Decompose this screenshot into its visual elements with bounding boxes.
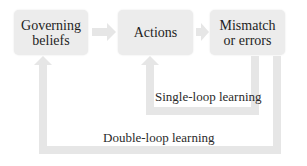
governing-beliefs-label-line2: beliefs (21, 33, 81, 48)
arrow-beliefs-to-actions (92, 23, 116, 41)
double-loop-label: Double-loop learning (103, 130, 215, 146)
actions-box: Actions (118, 10, 193, 55)
mismatch-label-line2: or errors (220, 33, 276, 48)
mismatch-label-line1: Mismatch (220, 18, 276, 33)
mismatch-box: Mismatch or errors (210, 10, 285, 55)
governing-beliefs-label-line1: Governing (21, 18, 81, 33)
single-loop-arrow (141, 56, 259, 115)
governing-beliefs-box: Governing beliefs (14, 10, 88, 55)
single-loop-label: Single-loop learning (155, 89, 262, 105)
arrow-actions-to-mismatch (196, 23, 209, 41)
actions-label: Actions (134, 25, 178, 40)
